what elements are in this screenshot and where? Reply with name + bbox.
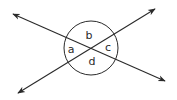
angle-label-d: d	[89, 55, 96, 68]
line-descending	[13, 14, 165, 81]
angle-label-c: c	[105, 41, 111, 54]
intersecting-lines-diagram: a b c d	[0, 0, 177, 100]
angle-label-a: a	[68, 43, 75, 56]
angle-label-b: b	[86, 29, 93, 42]
